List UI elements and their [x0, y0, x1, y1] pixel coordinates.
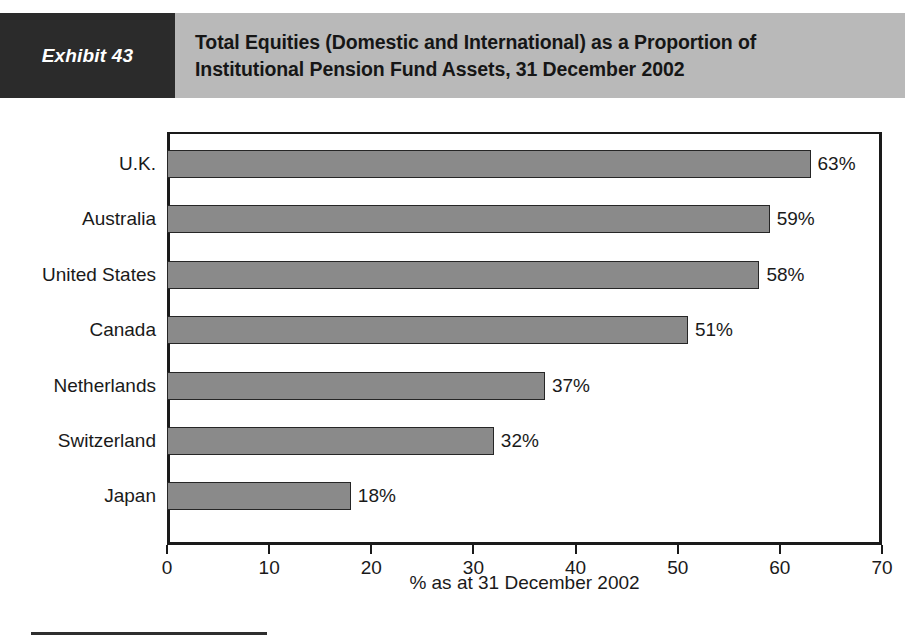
bar-canada	[167, 316, 688, 344]
bar-switzerland	[167, 427, 494, 455]
bar-value-label: 51%	[695, 319, 733, 341]
footnote-rule	[31, 632, 267, 635]
x-tick-mark	[268, 545, 270, 554]
x-axis-title: % as at 31 December 2002	[167, 572, 882, 594]
x-tick-mark	[370, 545, 372, 554]
bar-u-k	[167, 150, 811, 178]
category-label: Netherlands	[54, 375, 156, 397]
category-label: Switzerland	[58, 430, 156, 452]
category-label: Australia	[82, 208, 156, 230]
bar-netherlands	[167, 372, 545, 400]
x-tick-mark	[881, 545, 883, 554]
category-label: Canada	[89, 319, 156, 341]
bar-chart: U.K.AustraliaUnited StatesCanadaNetherla…	[0, 110, 910, 610]
bar-value-label: 37%	[552, 375, 590, 397]
exhibit-title-band: Total Equities (Domestic and Internation…	[175, 13, 905, 98]
bar-value-label: 32%	[501, 430, 539, 452]
bar-value-label: 58%	[766, 264, 804, 286]
bar-australia	[167, 205, 770, 233]
bar-united-states	[167, 261, 759, 289]
category-label: Japan	[104, 485, 156, 507]
bar-value-label: 18%	[358, 485, 396, 507]
x-tick-mark	[575, 545, 577, 554]
exhibit-title-line-1: Total Equities (Domestic and Internation…	[195, 29, 905, 56]
bar-japan	[167, 482, 351, 510]
exhibit-number-label: Exhibit 43	[42, 45, 134, 67]
x-tick-mark	[779, 545, 781, 554]
exhibit-header: Exhibit 43 Total Equities (Domestic and …	[0, 13, 905, 98]
x-tick-mark	[166, 545, 168, 554]
x-tick-mark	[472, 545, 474, 554]
exhibit-tag: Exhibit 43	[0, 13, 175, 98]
bar-value-label: 63%	[818, 153, 856, 175]
exhibit-title-line-2: Institutional Pension Fund Assets, 31 De…	[195, 56, 905, 83]
x-tick-mark	[677, 545, 679, 554]
bar-value-label: 59%	[777, 208, 815, 230]
category-label: U.K.	[119, 153, 156, 175]
category-label: United States	[42, 264, 156, 286]
